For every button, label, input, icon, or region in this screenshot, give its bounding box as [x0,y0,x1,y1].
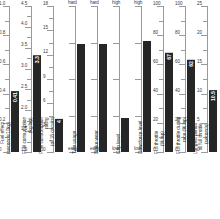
axis-minor-tick [49,67,54,68]
panel-caption-tyre-usage: Tyre usage [72,131,77,154]
axis-minor-tick [203,108,208,109]
axis-major-tick [25,110,32,111]
axis-minor-tick [181,79,186,80]
axis-major-tick [113,43,120,44]
axis-tick-label: 40 [175,88,180,93]
axis-minor-tick [5,79,10,80]
axis-tick-label: 10 [197,88,202,93]
axis-major-tick [157,64,164,65]
panel-caption-grip-level: Grip level [116,134,121,154]
axis-major-tick [69,6,76,7]
axis-minor-tick [27,58,32,59]
axis-tick-label: 3.5 [21,42,27,47]
panel-fuel-consumption-rating: 03691215184Fuel consumption rating (of 1… [44,2,66,219]
axis-major-tick [201,35,208,36]
axis-major-tick [69,116,76,117]
axis-minor-tick [203,21,208,22]
axis-tick-label: 9 [43,74,45,79]
axis-major-tick [135,6,142,7]
axis-major-tick [3,94,10,95]
panel-full-throttle-race: 02040608010062Full throttle during race … [176,2,198,219]
axis-major-tick [91,116,98,117]
axis-tick-label: 4.0 [21,21,27,26]
axis-major-tick [179,35,186,36]
axis-minor-tick [203,79,208,80]
axis-tick-label: 100 [153,1,160,6]
plot-area-downforce-level: highlow [132,2,154,152]
axis-tick-label: 80 [175,30,180,35]
axis-major-tick [201,64,208,65]
axis-major-tick [113,6,120,7]
plot-area-tyre-usage: hardeasy [66,2,88,152]
panel-caption-full-throttle-race: Full throttle during race (% lap) [176,117,187,154]
axis-major-tick [47,30,54,31]
axis-tick-label: 5 [197,117,199,122]
caption-zone-tyre-usage: Tyre usage [66,152,88,218]
axis-tick-label: 3.0 [21,63,27,68]
axis-tick-label: 15 [197,59,202,64]
axis-tick-label: 4.5 [21,1,27,6]
axis-minor-tick [159,108,164,109]
axis-tick-label: 15 [43,25,48,30]
axis-minor-tick [5,108,10,109]
panel-downforce-level: highlowDownforce level [132,2,154,219]
axis-tick-label: 20 [197,30,202,35]
axis-minor-tick [159,79,164,80]
bar-value-label-full-throttle-race: 62 [187,60,195,68]
axis-major-tick [157,6,164,7]
caption-zone-fuel-effect: Fuel effect (seconds/10kg) [0,152,22,218]
axis-minor-tick [181,50,186,51]
axis-tick-label: 6 [43,98,45,103]
axis-major-tick [135,116,142,117]
axis-minor-tick [181,21,186,22]
plot-area-grip-level: highlow [110,2,132,152]
axis-minor-tick [181,108,186,109]
panel-caption-fuel-consumption: Fuel consumption (kg/lap) [22,117,33,154]
axis-major-tick [201,6,208,7]
bar-brake-wear [99,44,107,152]
panel-fuel-consumption: 1.01.52.02.53.03.54.04.53.3Fuel consumpt… [22,2,44,219]
bar-value-label-longest-full-throttle: 10.5 [209,90,217,102]
panel-caption-longest-full-throttle: Longest period at full throttle (seconds… [193,123,209,154]
panel-full-throttle: 02040608010067Full throttle (% lap) [154,2,176,219]
axis-major-tick [25,27,32,28]
axis-major-tick [47,103,54,104]
axis-tick-label: 40 [153,88,158,93]
axis-major-tick [25,89,32,90]
bar-value-label-fuel-consumption: 3.3 [33,55,41,64]
axis-major-tick [179,64,186,65]
axis-tick-label: 60 [175,59,180,64]
axis-tick-label: 80 [153,30,158,35]
axis-tick-label: 0.8 [0,30,5,35]
axis-minor-tick [5,21,10,22]
bar-grip-level [121,118,129,152]
bar-tyre-usage [77,44,85,152]
axis-major-tick [113,116,120,117]
caption-zone-brake-wear: Brake wear [88,152,110,218]
axis-top-category-label: hard [90,0,99,5]
caption-zone-full-throttle: Full throttle (% lap) [154,152,176,218]
axis-tick-label: 25 [197,1,202,6]
axis-tick-label: 20 [153,117,158,122]
axis-major-tick [135,79,142,80]
bar-downforce-level [143,41,151,152]
axis-major-tick [47,55,54,56]
axis-major-tick [47,6,54,7]
panel-caption-brake-wear: Brake wear [94,130,99,154]
panel-caption-downforce-level: Downforce level [138,121,143,154]
panel-caption-full-throttle: Full throttle (% lap) [154,131,165,154]
axis-tick-label: 1.0 [0,1,5,6]
caption-zone-downforce-level: Downforce level [132,152,154,218]
axis-major-tick [91,6,98,7]
axis-minor-tick [203,50,208,51]
panel-caption-fuel-consumption-rating: Fuel consumption rating (of 18 circuits) [39,117,55,154]
axis-major-tick [47,79,54,80]
axis-major-tick [3,6,10,7]
caption-zone-full-throttle-race: Full throttle during race (% lap) [176,152,198,218]
axis-major-tick [201,94,208,95]
axis-major-tick [69,43,76,44]
axis-major-tick [91,79,98,80]
axis-minor-tick [5,50,10,51]
axis-tick-label: 2.5 [21,84,27,89]
axis-tick-label: 18 [43,1,48,6]
